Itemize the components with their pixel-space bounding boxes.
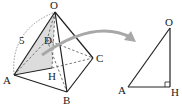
edge-AB (14, 75, 67, 92)
tri-edge-OA (128, 28, 170, 87)
tri-label-A: A (118, 84, 126, 96)
right-triangle (128, 28, 170, 87)
label-B: B (63, 94, 70, 106)
diagram-canvas: O A B C D H 5 O A H (0, 0, 182, 111)
tri-label-H: H (171, 86, 179, 98)
label-A: A (3, 74, 11, 86)
right-angle-mark (165, 82, 170, 87)
label-length-5: 5 (19, 34, 25, 46)
tri-label-O: O (165, 16, 173, 28)
label-D: D (44, 34, 52, 46)
label-O: O (50, 0, 58, 11)
label-H: H (48, 70, 56, 82)
label-C: C (96, 52, 103, 64)
